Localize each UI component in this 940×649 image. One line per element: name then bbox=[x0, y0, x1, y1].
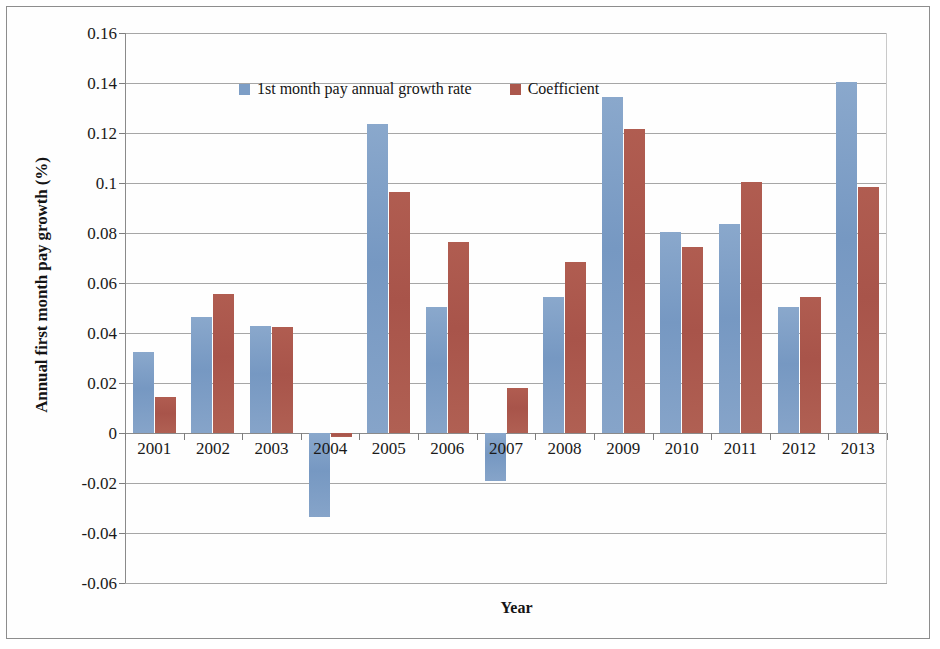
x-tick-label-2008: 2008 bbox=[535, 440, 594, 457]
bar-2013-series-0 bbox=[836, 82, 857, 433]
bar-2011-series-0 bbox=[719, 224, 740, 433]
x-tick-label-2005: 2005 bbox=[359, 440, 418, 457]
bar-2003-series-0 bbox=[250, 326, 271, 434]
plot-area bbox=[125, 33, 887, 583]
bar-2007-series-1 bbox=[507, 388, 528, 433]
bar-2004-series-1 bbox=[331, 433, 352, 437]
bar-2005-series-1 bbox=[389, 192, 410, 433]
x-tick-label-2002: 2002 bbox=[184, 440, 243, 457]
legend-label-series-1: Coefficient bbox=[528, 81, 600, 97]
bar-2010-series-1 bbox=[682, 247, 703, 433]
y-tick-label: -0.04 bbox=[82, 525, 117, 542]
x-tick-label-2004: 2004 bbox=[301, 440, 360, 457]
gridline bbox=[125, 583, 887, 584]
figure-frame: Annual first month pay growth (%) 0.160.… bbox=[6, 6, 930, 639]
x-axis-tick-labels: 2001200220032004200520062007200820092010… bbox=[125, 440, 887, 466]
y-tick-label: -0.06 bbox=[82, 575, 117, 592]
bar-2010-series-0 bbox=[660, 232, 681, 433]
y-tick-label: 0.06 bbox=[87, 275, 117, 292]
y-tick-label: 0.1 bbox=[96, 175, 117, 192]
y-tick-label: 0.14 bbox=[87, 75, 117, 92]
bar-2013-series-1 bbox=[858, 187, 879, 433]
y-tick-label: 0 bbox=[109, 425, 118, 442]
x-tick-label-2011: 2011 bbox=[711, 440, 770, 457]
bar-2012-series-1 bbox=[800, 297, 821, 433]
bar-2006-series-1 bbox=[448, 242, 469, 433]
bar-2005-series-0 bbox=[367, 124, 388, 433]
bar-2012-series-0 bbox=[778, 307, 799, 433]
y-axis-tick-labels: 0.160.140.120.10.080.060.040.020-0.02-0.… bbox=[47, 33, 117, 583]
y-tick-label: 0.08 bbox=[87, 225, 117, 242]
bar-2008-series-1 bbox=[565, 262, 586, 433]
y-tick-mark bbox=[119, 583, 125, 584]
x-tick-label-2012: 2012 bbox=[770, 440, 829, 457]
x-axis-title: Year bbox=[102, 599, 931, 617]
y-tick-label: 0.12 bbox=[87, 125, 117, 142]
x-tick-label-2006: 2006 bbox=[418, 440, 477, 457]
x-tick-label-2009: 2009 bbox=[594, 440, 653, 457]
y-tick-label: 0.16 bbox=[87, 25, 117, 42]
bar-chart: Annual first month pay growth (%) 0.160.… bbox=[7, 7, 931, 640]
x-tick-label-2003: 2003 bbox=[242, 440, 301, 457]
bar-2009-series-1 bbox=[624, 129, 645, 433]
x-tick-label-2010: 2010 bbox=[653, 440, 712, 457]
chart-legend: 1st month pay annual growth rate Coeffic… bbox=[239, 81, 599, 97]
x-tick-label-2007: 2007 bbox=[477, 440, 536, 457]
bar-2006-series-0 bbox=[426, 307, 447, 433]
y-tick-label: 0.04 bbox=[87, 325, 117, 342]
y-tick-label: -0.02 bbox=[82, 475, 117, 492]
legend-entry-series-1[interactable]: Coefficient bbox=[510, 81, 600, 97]
bar-2001-series-1 bbox=[155, 397, 176, 433]
x-tick-label-2013: 2013 bbox=[828, 440, 887, 457]
bar-2002-series-1 bbox=[213, 294, 234, 433]
bar-2009-series-0 bbox=[602, 97, 623, 433]
bar-2002-series-0 bbox=[191, 317, 212, 433]
bar-2011-series-1 bbox=[741, 182, 762, 433]
x-tick-mark bbox=[887, 433, 888, 440]
bar-2003-series-1 bbox=[272, 327, 293, 433]
y-tick-label: 0.02 bbox=[87, 375, 117, 392]
legend-swatch-icon-series-0 bbox=[239, 84, 250, 95]
legend-label-series-0: 1st month pay annual growth rate bbox=[257, 81, 472, 97]
bar-2008-series-0 bbox=[543, 297, 564, 433]
bars-layer bbox=[125, 33, 887, 583]
bar-2001-series-0 bbox=[133, 352, 154, 433]
x-tick-label-2001: 2001 bbox=[125, 440, 184, 457]
legend-entry-series-0[interactable]: 1st month pay annual growth rate bbox=[239, 81, 472, 97]
legend-swatch-icon-series-1 bbox=[510, 84, 521, 95]
